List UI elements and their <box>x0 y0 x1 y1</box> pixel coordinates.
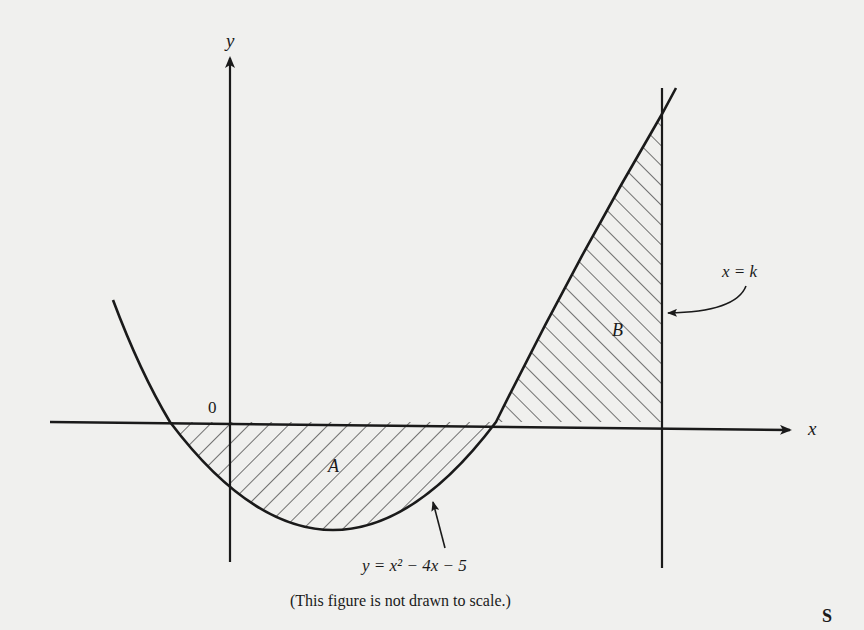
curve-equation-label: y = x² − 4x − 5 <box>362 556 467 576</box>
y-axis-label: y <box>226 30 234 52</box>
region-b-label: B <box>612 320 623 341</box>
origin-label: 0 <box>208 398 217 418</box>
region-a-label: A <box>328 456 339 477</box>
curve-pointer-arrow <box>433 502 445 548</box>
x-axis-label: x <box>808 418 816 440</box>
x-equals-k-pointer-arrow <box>668 286 746 313</box>
vertical-line-label: x = k <box>722 262 757 282</box>
figure-caption: (This figure is not drawn to scale.) <box>290 592 511 610</box>
corner-mark: S <box>822 606 832 627</box>
parabola-area-figure <box>0 0 864 630</box>
region-b-shading <box>496 114 662 422</box>
